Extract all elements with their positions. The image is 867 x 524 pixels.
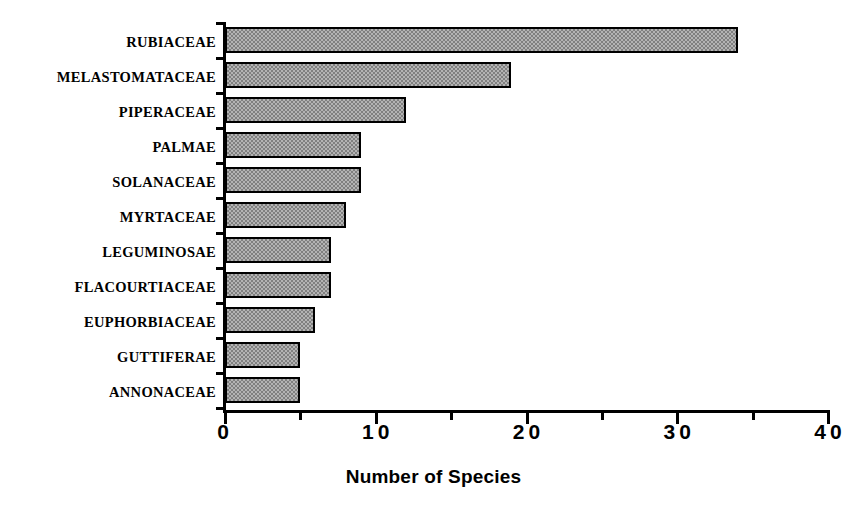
x-axis-tick-label: 20 [513,420,544,444]
y-axis-tick [216,267,225,270]
category-label-leguminosae: LEGUMINOSAE [0,235,216,270]
species-by-family-bar-chart: RUBIACEAE MELASTOMATACEAE PIPERACEAE PAL… [0,0,867,524]
y-axis-tick [216,127,225,130]
bar-guttiferae [225,342,300,368]
bar-annonaceae [225,377,300,403]
bar-flacourtiaceae [225,272,331,298]
x-axis-tick-label: 40 [814,420,845,444]
bar-solanaceae [225,167,361,193]
bar-leguminosae [225,237,331,263]
y-axis-tick [216,57,225,60]
category-label-rubiaceae: RUBIACEAE [0,25,216,60]
category-label-piperaceae: PIPERACEAE [0,95,216,130]
x-axis-tick-minor [601,413,604,420]
y-axis-tick [216,232,225,235]
bar-melastomataceae [225,62,511,88]
y-axis-tick [216,162,225,165]
y-axis-tick [216,302,225,305]
category-label-flacourtiaceae: FLACOURTIACEAE [0,270,216,305]
plot-area: RUBIACEAE MELASTOMATACEAE PIPERACEAE PAL… [0,0,867,524]
y-axis-tick [216,197,225,200]
x-axis-tick-minor [752,413,755,420]
y-axis-tick [216,92,225,95]
y-axis-line [223,22,226,412]
x-axis-tick-label: 0 [217,420,233,444]
x-axis-tick-label: 10 [362,420,393,444]
category-label-guttiferae: GUTTIFERAE [0,340,216,375]
x-axis-tick-minor [299,413,302,420]
y-axis-tick [216,337,225,340]
bar-myrtaceae [225,202,346,228]
bar-palmae [225,132,361,158]
category-label-annonaceae: ANNONACEAE [0,375,216,410]
y-axis-tick [216,372,225,375]
category-axis-labels: RUBIACEAE MELASTOMATACEAE PIPERACEAE PAL… [0,25,216,410]
x-axis-title: Number of Species [0,466,867,488]
y-axis-tick [216,22,225,25]
bar-euphorbiaceae [225,307,315,333]
category-label-euphorbiaceae: EUPHORBIACEAE [0,305,216,340]
x-axis-tick-minor [450,413,453,420]
category-label-melastomataceae: MELASTOMATACEAE [0,60,216,95]
category-label-myrtaceae: MYRTACEAE [0,200,216,235]
bar-rubiaceae [225,27,738,53]
bar-piperaceae [225,97,406,123]
category-label-solanaceae: SOLANACEAE [0,165,216,200]
category-label-palmae: PALMAE [0,130,216,165]
x-axis-tick-label: 30 [664,420,695,444]
